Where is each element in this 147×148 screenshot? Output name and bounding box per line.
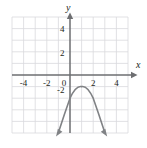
x-axis-arrow-icon (131, 72, 138, 78)
y-tick-label-2: 2 (60, 48, 65, 58)
y-axis (67, 13, 73, 134)
y-tick-label-4: 4 (60, 24, 65, 34)
coordinate-plane-chart: -4 -2 0 2 4 -2 2 4 x y (0, 0, 147, 148)
x-tick-label-neg4: -4 (20, 78, 28, 88)
x-axis (12, 72, 138, 78)
graph-figure: -4 -2 0 2 4 -2 2 4 x y (0, 0, 147, 148)
x-tick-label-4: 4 (114, 78, 119, 88)
x-axis-name-label: x (135, 59, 141, 70)
x-tick-label-neg2: -2 (43, 78, 51, 88)
y-tick-label-neg2: -2 (57, 85, 65, 95)
x-tick-label-2: 2 (91, 78, 96, 88)
y-axis-arrow-icon (67, 13, 73, 20)
y-axis-name-label: y (65, 2, 71, 13)
